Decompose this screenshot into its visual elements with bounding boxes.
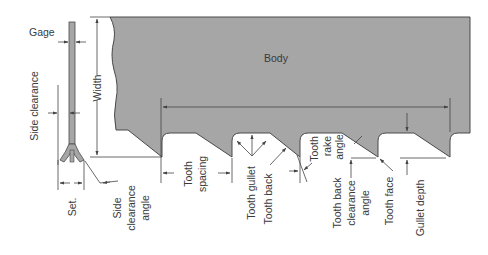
blade-side-view [60,22,84,162]
side-clearance-angle-label-3: angle [139,195,151,221]
tooth-back-clearance-angle-label-3: angle [359,190,371,216]
set-label: Set. [66,198,78,217]
tooth-rake-angle-label-2: rake [321,136,333,157]
side-clearance-label: Side clearance [28,71,40,141]
tooth-back-pointer [270,148,286,165]
tooth-rake-angle-label-3: angle [333,134,345,160]
gage-label: Gage [29,26,55,38]
tooth-rake-angle-label-1: Tooth [308,136,320,162]
width-label: Width [91,74,103,101]
tooth-spacing-label-2: spacing [196,156,208,192]
set-dimension [58,160,84,190]
tooth-back-label: Tooth back [262,173,274,225]
body-label: Body [264,52,289,64]
saw-blade-nomenclature-diagram: Body Width Gage Side clearance [0,0,488,255]
tooth-face-pointer [380,159,393,171]
tooth-back-clearance-angle-label-2: clearance [345,180,357,226]
blade-body [110,17,470,157]
side-clearance-angle-label-2: clearance [125,185,137,231]
tooth-spacing-label-1: Tooth [182,161,194,187]
gullet-depth-label: Gullet depth [414,180,426,237]
tooth-back-clearance-angle-label-1: Tooth back [331,177,343,229]
side-clearance-angle-pointer [85,161,118,183]
tooth-gullet-pointer [237,135,266,156]
tooth-gullet-label: Tooth gullet [245,166,257,220]
side-clearance-angle-label-1: Side [111,197,123,218]
tooth-face-label: Tooth face [383,177,395,226]
